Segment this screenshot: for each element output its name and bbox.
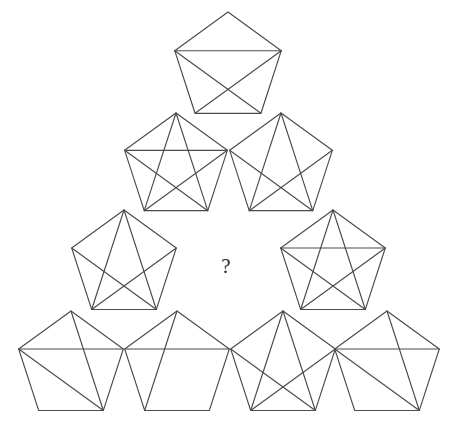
pentagon-puzzle-figure: ? bbox=[0, 0, 452, 436]
pentagon-row3-1 bbox=[72, 210, 177, 310]
question-mark-placeholder: ? bbox=[221, 254, 230, 278]
pentagon-row4-4 bbox=[335, 311, 440, 411]
pentagon-row2-2 bbox=[230, 113, 333, 211]
pentagon-row4-2 bbox=[125, 311, 230, 411]
pentagon-puzzle-canvas: ? bbox=[0, 0, 452, 436]
pentagon-row3-2 bbox=[281, 210, 386, 310]
pentagon-row4-2-outline bbox=[125, 311, 230, 411]
pentagon-row1-1 bbox=[175, 12, 282, 113]
pentagon-row2-1 bbox=[125, 113, 228, 211]
pentagon-row4-3 bbox=[231, 311, 336, 411]
pentagon-layer bbox=[19, 12, 440, 411]
pentagon-row4-1 bbox=[19, 311, 124, 411]
